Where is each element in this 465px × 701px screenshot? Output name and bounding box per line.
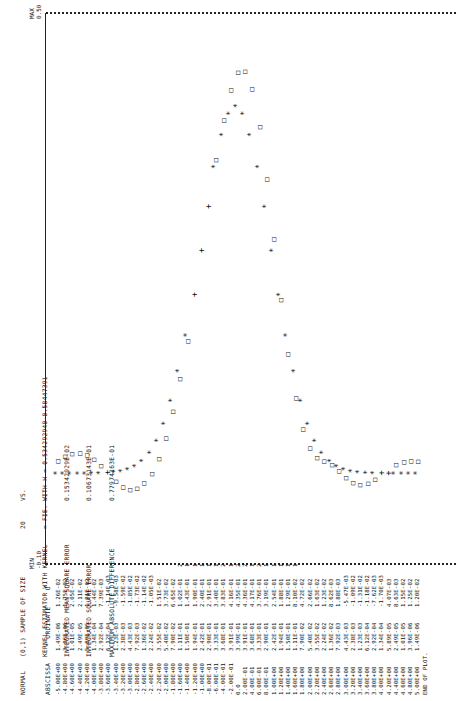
- distribution-label: NORMAL: [19, 657, 26, 695]
- ordinate-star-cell: 2.24E-02: [148, 607, 155, 651]
- table-row: -4.60E+001.01E-052.05E-02: [69, 559, 76, 695]
- table-row: -1.20E+001.94E-011.90E-011: [192, 559, 199, 695]
- abscissa-cell: 2.40E+00: [321, 651, 328, 695]
- ordinate-star-cell: 3.68E-01: [220, 607, 227, 651]
- o-point: □: [220, 117, 228, 125]
- table-row: -2.00E+005.40E-023.73E-02: [163, 559, 170, 695]
- ordinate-o-cell: 3.73E-02: [163, 567, 170, 607]
- table-row: 1.20E+001.94E-011.88E-011: [278, 559, 285, 695]
- abscissa-cell: -2.00E-01: [228, 651, 235, 695]
- axis-min-label: MIN -0.10: [28, 551, 42, 569]
- ordinate-o-cell: 1.29E-01: [285, 567, 292, 607]
- ordinate-o-cell: 1.63E-02: [314, 567, 321, 607]
- ordinate-star-cell: 3.33E-01: [213, 607, 220, 651]
- abscissa-cell: -3.00E+00: [127, 651, 134, 695]
- ordinate-o-cell: 1.15E-02: [400, 567, 407, 607]
- ordinate-o-cell: 1.90E-01: [192, 567, 199, 607]
- abscissa-cell: -6.00E-01: [213, 651, 220, 695]
- ordinate-star-cell: 1.50E-01: [184, 607, 191, 651]
- o-point: □: [248, 85, 256, 93]
- abscissa-cell: -3.60E+00: [105, 651, 112, 695]
- o-point: □: [414, 458, 422, 466]
- abscissa-cell: -4.20E+00: [84, 651, 91, 695]
- table-row: -1.80E+007.90E-026.65E-02: [170, 559, 177, 695]
- ordinate-star-cell: 3.55E-02: [314, 607, 321, 651]
- ordinate-star-cell: 6.12E-04: [105, 607, 112, 651]
- table-row: -3.20E+002.38E-03-1.59E-02: [120, 559, 127, 695]
- table-row: 3.40E+001.23E-03-1.31E-02: [357, 559, 364, 695]
- star-point: +: [205, 202, 213, 210]
- o-point: □: [184, 337, 192, 345]
- star-point: *: [320, 448, 328, 456]
- table-row: 4.20E+005.89E-054.07E-03: [386, 559, 393, 695]
- ordinate-star-cell: 2.90E-01: [206, 607, 213, 651]
- ordinate-o-cell: 1.44E-02: [91, 567, 98, 607]
- table-row: 3.20E+002.38E-03-1.09E-02: [350, 559, 357, 695]
- abscissa-cell: 4.00E-01: [249, 651, 256, 695]
- abscissa-cell: -1.00E+00: [199, 651, 206, 695]
- table-row: 2.00E+005.40E-022.66E-02: [307, 559, 314, 695]
- abscissa-cell: 2.00E-01: [242, 651, 249, 695]
- ordinate-star-cell: 1.11E-01: [177, 607, 184, 651]
- star-point: *: [306, 419, 314, 427]
- abscissa-cell: 8.00E-01: [263, 651, 270, 695]
- o-point: □: [227, 86, 235, 94]
- ordinate-star-cell: 1.23E-03: [357, 607, 364, 651]
- ordinate-o-cell: 2.66E-02: [307, 567, 314, 607]
- o-point: □: [148, 470, 156, 478]
- star-point: *: [256, 163, 264, 171]
- abscissa-cell: -2.60E+00: [141, 651, 148, 695]
- abscissa-cell: -2.00E+00: [163, 651, 170, 695]
- ordinate-o-cell: -1.05E-03: [148, 567, 155, 607]
- ordinate-star-cell: 3.68E-01: [249, 607, 256, 651]
- ordinate-star-cell: 3.96E-06: [407, 607, 414, 651]
- ordinate-star-cell: 7.90E-02: [170, 607, 177, 651]
- abscissa-cell: 2.00E+00: [307, 651, 314, 695]
- ordinate-o-cell: 3.83E-01: [220, 567, 227, 607]
- abscissa-cell: 1.20E+00: [278, 651, 285, 695]
- o-point: □: [176, 375, 184, 383]
- ordinate-o-cell: 6.65E-02: [170, 567, 177, 607]
- axis-max-label: MAX 0.50: [28, 5, 42, 19]
- table-row: -1.60E+001.11E-011.02E-012: [177, 559, 184, 695]
- star-point: *: [169, 396, 177, 404]
- printout-page: NORMAL(0,1) SAMPLE OF SIZE20VS. KERNEL E…: [0, 0, 465, 701]
- ordinate-star-cell: 2.42E-01: [199, 607, 206, 651]
- ordinate-o-cell: 4.07E-03: [386, 567, 393, 607]
- ordinate-star-cell: 1.36E-02: [328, 607, 335, 651]
- ordinate-star-cell: 3.96E-06: [62, 607, 69, 651]
- star-point: *: [313, 436, 321, 444]
- o-point: □: [162, 435, 170, 443]
- star-point: *: [162, 419, 170, 427]
- table-row: 3.60E+006.12E-04-1.18E-02: [364, 559, 371, 695]
- ordinate-star-cell: 5.89E-05: [386, 607, 393, 651]
- ordinate-o-cell: 7.39E-03: [98, 567, 105, 607]
- ordinate-star-cell: 2.49E-05: [393, 607, 400, 651]
- ordinate-o-cell: 1.88E-01: [278, 567, 285, 607]
- ordinate-star-cell: 2.24E-02: [321, 607, 328, 651]
- ordinate-o-cell: 1.25E-02: [407, 567, 414, 607]
- ordinate-o-cell: 1.23E-02: [321, 567, 328, 607]
- abscissa-cell: -5.00E+00: [55, 651, 62, 695]
- ordinate-o-cell: 8.62E-03: [328, 567, 335, 607]
- o-point: □: [306, 445, 314, 453]
- o-point: □: [371, 476, 379, 484]
- abscissa-cell: 2.20E+00: [314, 651, 321, 695]
- abscissa-cell: -2.20E+00: [156, 651, 163, 695]
- abscissa-cell: 1.40E+00: [285, 651, 292, 695]
- ordinate-o-cell: 4.72E-02: [299, 567, 306, 607]
- ordinate-star-header: * ORDINATE: [44, 606, 51, 646]
- ordinate-star-cell: 1.50E-01: [285, 607, 292, 651]
- plot-area: *□*□*□*□*□*□*□+*□*□*□*□*□*□*□*□*□*□*□+++…: [46, 13, 456, 565]
- ordinate-o-cell: 4.17E-01: [249, 567, 256, 607]
- o-point: □: [270, 235, 278, 243]
- ordinate-o-cell: 8.63E-03: [393, 567, 400, 607]
- table-row: 6.00E-013.33E-013.76E-012: [256, 559, 263, 695]
- abscissa-cell: 2.60E+00: [328, 651, 335, 695]
- star-point: *: [220, 130, 228, 138]
- o-point: □: [169, 408, 177, 416]
- ordinate-o-cell: -7.62E-03: [371, 567, 378, 607]
- table-row: 4.40E+002.49E-058.63E-03: [393, 559, 400, 695]
- ordinate-star-cell: 3.55E-02: [156, 607, 163, 651]
- abscissa-header: ABSCISSA: [44, 663, 51, 695]
